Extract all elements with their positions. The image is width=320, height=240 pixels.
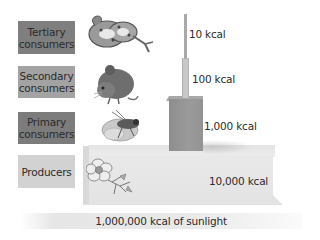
label-line: Producers <box>21 166 71 178</box>
label-primary-consumers: Primaryconsumers <box>18 112 75 144</box>
label-line: consumers <box>19 38 75 50</box>
label-line: consumers <box>19 128 75 140</box>
snake-icon <box>85 12 155 54</box>
energy-tertiary: 10 kcal <box>189 28 226 40</box>
primary-consumers-box <box>169 99 203 151</box>
label-tertiary-consumers: Tertiaryconsumers <box>18 21 75 54</box>
label-producers: Producers <box>18 155 75 188</box>
tertiary-consumers-column <box>184 14 187 59</box>
label-line: consumers <box>19 82 75 94</box>
sunlight-bar: 1,000,000 kcal of sunlight <box>20 213 302 229</box>
energy-primary: 1,000 kcal <box>204 120 257 132</box>
box-shadow <box>203 140 253 154</box>
label-line: Primary <box>27 116 66 128</box>
grasshopper-on-flower-icon <box>98 108 146 144</box>
label-secondary-consumers: Secondaryconsumers <box>18 66 75 98</box>
energy-secondary: 100 kcal <box>192 73 235 85</box>
secondary-consumers-column <box>182 58 189 98</box>
label-line: Tertiary <box>28 26 66 38</box>
mouse-icon <box>88 60 140 105</box>
label-line: Secondary <box>20 70 74 82</box>
energy-producers: 10,000 kcal <box>209 175 268 187</box>
sunlight-label: 1,000,000 kcal of sunlight <box>95 215 227 227</box>
flowering-plant-icon <box>86 156 136 198</box>
